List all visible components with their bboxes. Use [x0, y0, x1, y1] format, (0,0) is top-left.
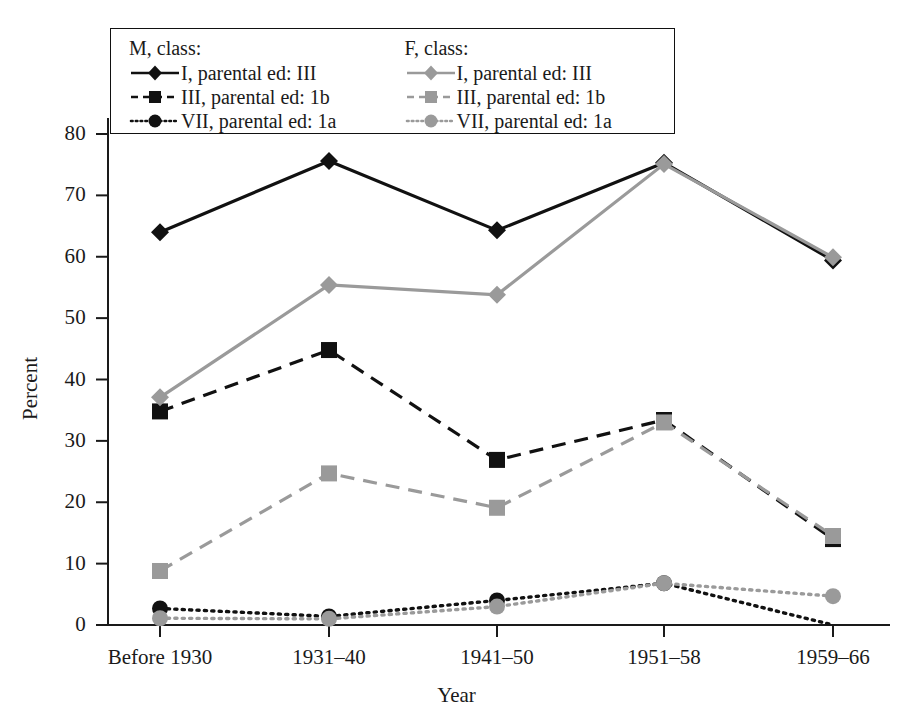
legend-item-f-iii: III, parental ed: 1b	[405, 85, 675, 109]
legend-key-f-i	[405, 62, 457, 84]
y-tick-label: 50	[26, 307, 86, 328]
chart-legend: M, class: I, parental ed: III III, paren…	[110, 28, 675, 134]
x-tick-label: 1959–66	[733, 647, 913, 668]
axes-layer	[96, 118, 890, 637]
series-layer	[151, 152, 842, 627]
series-m-square	[152, 342, 841, 547]
y-tick-label: 20	[26, 491, 86, 512]
series-f-square	[152, 414, 841, 579]
legend-group-female: F, class: I, parental ed: III III, paren…	[399, 36, 675, 133]
x-axis-title: Year	[0, 683, 913, 708]
legend-label-f-iii: III, parental ed: 1b	[457, 86, 606, 108]
series-m-diamond	[151, 152, 842, 269]
y-tick-label: 80	[26, 123, 86, 144]
legend-label-f-i: I, parental ed: III	[457, 62, 592, 84]
legend-item-m-i: I, parental ed: III	[129, 61, 399, 85]
legend-key-m-i	[129, 62, 181, 84]
legend-label-m-i: I, parental ed: III	[181, 62, 316, 84]
legend-label-f-vii: VII, parental ed: 1a	[457, 110, 612, 132]
legend-key-f-vii	[405, 110, 457, 132]
legend-key-f-iii	[405, 86, 457, 108]
legend-key-m-vii	[129, 110, 181, 132]
legend-key-m-iii	[129, 86, 181, 108]
y-axis-title: Percent	[18, 357, 43, 420]
y-tick-label: 30	[26, 430, 86, 451]
legend-label-m-iii: III, parental ed: 1b	[181, 86, 330, 108]
legend-item-m-vii: VII, parental ed: 1a	[129, 109, 399, 133]
y-tick-label: 70	[26, 184, 86, 205]
legend-item-f-i: I, parental ed: III	[405, 61, 675, 85]
legend-item-f-vii: VII, parental ed: 1a	[405, 109, 675, 133]
chart-figure: 01020304050607080 Before 19301931–401941…	[0, 0, 913, 718]
legend-group-male: M, class: I, parental ed: III III, paren…	[111, 36, 399, 133]
legend-label-m-vii: VII, parental ed: 1a	[181, 110, 336, 132]
y-tick-label: 10	[26, 553, 86, 574]
legend-item-m-iii: III, parental ed: 1b	[129, 85, 399, 109]
legend-heading-male: M, class:	[129, 36, 399, 60]
y-tick-label: 0	[26, 614, 86, 635]
y-tick-label: 60	[26, 246, 86, 267]
series-f-circle	[152, 575, 841, 627]
legend-heading-female: F, class:	[405, 36, 675, 60]
